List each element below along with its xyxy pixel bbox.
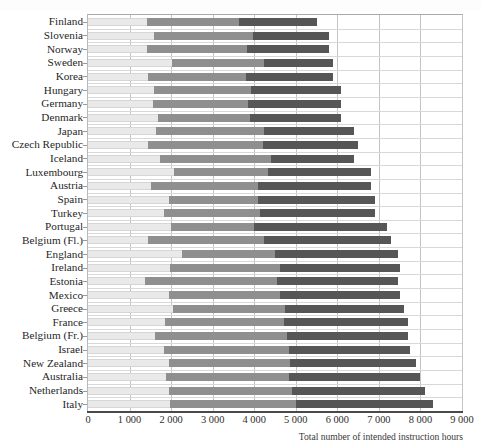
category-label: France — [0, 316, 83, 328]
x-axis-title: Total number of intended instruction hou… — [299, 431, 463, 442]
category-tick — [83, 131, 87, 132]
category-label: Ireland — [0, 261, 83, 273]
category-tick — [83, 158, 87, 159]
category-label: New Zealand — [0, 357, 83, 369]
bar-segment-upper — [277, 277, 398, 285]
category-tick — [83, 404, 87, 405]
category-label: Israel — [0, 343, 83, 355]
bar-segment-primary — [88, 223, 171, 231]
x-tick-label: 5 000 — [284, 414, 307, 425]
category-tick — [83, 363, 87, 364]
stacked-bar[interactable] — [88, 373, 420, 381]
category-tick — [83, 240, 87, 241]
stacked-bar[interactable] — [88, 359, 416, 367]
category-tick — [83, 295, 87, 296]
stacked-bar[interactable] — [88, 400, 433, 408]
bar-segment-lower — [147, 45, 247, 53]
stacked-bar[interactable] — [88, 236, 391, 244]
stacked-bar[interactable] — [88, 291, 400, 299]
x-tick-label: 3 000 — [201, 414, 224, 425]
bar-segment-lower — [166, 373, 289, 381]
stacked-bar[interactable] — [88, 168, 371, 176]
gridline — [462, 15, 463, 411]
bar-segment-lower — [173, 305, 285, 313]
category-label: Netherlands — [0, 384, 83, 396]
category-label: Italy — [0, 398, 83, 410]
bars-container — [88, 15, 462, 411]
bar-segment-upper — [275, 250, 397, 258]
stacked-bar[interactable] — [88, 155, 354, 163]
x-tick-label: 4 000 — [243, 414, 266, 425]
stacked-bar[interactable] — [88, 59, 333, 67]
stacked-bar[interactable] — [88, 86, 341, 94]
bar-segment-primary — [88, 32, 154, 40]
bar-segment-lower — [148, 236, 264, 244]
stacked-bar[interactable] — [88, 114, 341, 122]
category-label: Spain — [0, 193, 83, 205]
category-label: Greece — [0, 302, 83, 314]
bar-segment-primary — [88, 127, 156, 135]
stacked-bar[interactable] — [88, 73, 333, 81]
stacked-bar[interactable] — [88, 196, 375, 204]
bar-segment-primary — [88, 291, 169, 299]
category-label: Norway — [0, 43, 83, 55]
stacked-bar[interactable] — [88, 18, 317, 26]
bar-segment-upper — [285, 305, 403, 313]
bar-segment-upper — [248, 100, 341, 108]
stacked-bar[interactable] — [88, 346, 410, 354]
bar-segment-upper — [253, 32, 329, 40]
bar-segment-lower — [145, 277, 277, 285]
bar-segment-lower — [172, 59, 263, 67]
category-tick — [83, 49, 87, 50]
bar-segment-primary — [88, 209, 164, 217]
category-label: Czech Republic — [0, 138, 83, 150]
bar-segment-primary — [88, 18, 147, 26]
category-tick — [83, 309, 87, 310]
stacked-bar[interactable] — [88, 209, 375, 217]
category-label: Estonia — [0, 275, 83, 287]
bar-segment-upper — [296, 400, 433, 408]
bar-segment-primary — [88, 45, 147, 53]
stacked-bar[interactable] — [88, 318, 408, 326]
bar-segment-primary — [88, 346, 164, 354]
bar-segment-primary — [88, 168, 174, 176]
bar-segment-upper — [239, 18, 317, 26]
bar-segment-lower — [169, 387, 292, 395]
stacked-bar[interactable] — [88, 250, 398, 258]
bar-segment-upper — [290, 359, 417, 367]
bar-segment-lower — [169, 291, 279, 299]
bar-segment-upper — [289, 373, 420, 381]
stacked-bar[interactable] — [88, 277, 398, 285]
category-tick — [83, 268, 87, 269]
stacked-bar[interactable] — [88, 223, 387, 231]
stacked-bar[interactable] — [88, 264, 400, 272]
bar-segment-upper — [289, 346, 410, 354]
category-tick — [83, 227, 87, 228]
bar-segment-lower — [165, 318, 284, 326]
bar-segment-upper — [292, 387, 424, 395]
category-tick — [83, 35, 87, 36]
stacked-bar[interactable] — [88, 305, 404, 313]
category-label: Korea — [0, 70, 83, 82]
stacked-bar[interactable] — [88, 100, 341, 108]
category-label: Sweden — [0, 56, 83, 68]
category-tick — [83, 117, 87, 118]
category-tick — [83, 172, 87, 173]
category-tick — [83, 76, 87, 77]
category-tick — [83, 377, 87, 378]
category-label: Germany — [0, 97, 83, 109]
category-label: Portugal — [0, 220, 83, 232]
category-label: Austria — [0, 179, 83, 191]
bar-segment-upper — [280, 264, 399, 272]
stacked-bar[interactable] — [88, 141, 358, 149]
stacked-bar[interactable] — [88, 127, 354, 135]
clipped-top-caption — [0, 0, 481, 11]
bar-segment-lower — [170, 264, 281, 272]
bar-segment-primary — [88, 155, 160, 163]
bar-segment-lower — [155, 332, 287, 340]
stacked-bar[interactable] — [88, 32, 329, 40]
stacked-bar[interactable] — [88, 387, 425, 395]
stacked-bar[interactable] — [88, 45, 329, 53]
stacked-bar[interactable] — [88, 182, 371, 190]
stacked-bar[interactable] — [88, 332, 408, 340]
